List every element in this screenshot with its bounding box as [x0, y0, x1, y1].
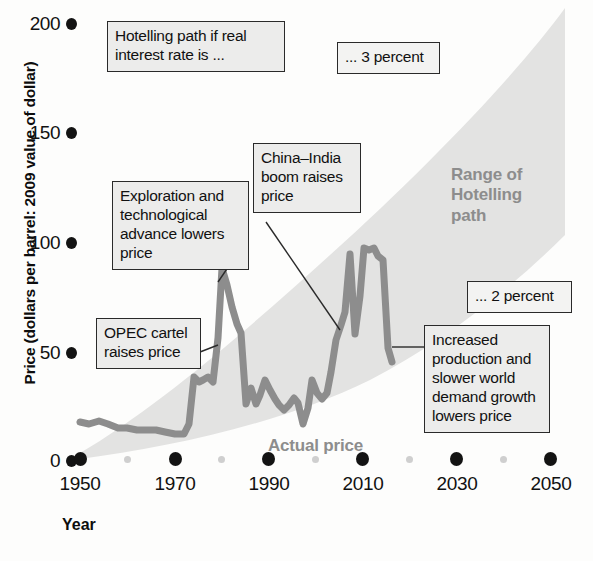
x-axis-title: Year [62, 516, 96, 534]
y-tick-150-label: 150 [16, 122, 60, 144]
china-line-1: China–India [261, 149, 353, 168]
x-tick-label-1950: 1950 [45, 473, 115, 495]
x-tick-label-2010: 2010 [328, 473, 398, 495]
exploration-line-2: technological [120, 206, 241, 225]
y-tick-50: 50 [16, 344, 77, 362]
x-tick-label-2030: 2030 [422, 473, 492, 495]
y-tick-100-label: 100 [16, 232, 60, 254]
hotelling-line-1: Hotelling path if real [115, 27, 277, 46]
x-tick-dot-1970 [169, 452, 182, 466]
x-tick-dot-2020 [406, 456, 413, 463]
y-tick-150-dot [66, 127, 77, 139]
opec-line-1: OPEC cartel [104, 324, 193, 343]
range-line-2: Hotelling [451, 185, 522, 205]
y-tick-200: 200 [16, 15, 77, 33]
annotation-hotelling-path-box: Hotelling path if real interest rate is … [107, 21, 285, 72]
y-tick-0-label: 0 [16, 450, 60, 472]
exploration-line-4: price [120, 244, 241, 263]
y-tick-150: 150 [16, 124, 77, 142]
range-line-3: path [451, 206, 522, 226]
x-tick-dot-2040 [500, 456, 507, 463]
x-tick-dot-1960 [124, 456, 131, 463]
y-tick-100: 100 [16, 234, 77, 252]
china-line-3: price [261, 187, 353, 206]
range-of-hotelling-path-label: Range of Hotelling path [451, 165, 522, 226]
opec-line-2: raises price [104, 343, 193, 362]
x-tick-label-1990: 1990 [234, 473, 304, 495]
x-tick-dot-1950 [74, 452, 87, 466]
annotation-china-india-box: China–India boom raises price [253, 143, 361, 213]
annotation-opec-box: OPEC cartel raises price [96, 318, 201, 369]
x-tick-dot-2030 [450, 452, 463, 466]
y-tick-100-dot [66, 237, 77, 249]
y-tick-50-label: 50 [16, 342, 60, 364]
y-tick-200-dot [66, 18, 77, 30]
x-tick-label-1970: 1970 [140, 473, 210, 495]
x-tick-dot-2000 [312, 456, 319, 463]
actual-price-label: Actual price [268, 436, 363, 456]
exploration-line-1: Exploration and [120, 187, 241, 206]
y-tick-50-dot [66, 347, 77, 359]
y-axis-title: Price (dollars per barrel: 2009 value of… [21, 0, 39, 449]
increased-line-2: production and [432, 350, 542, 369]
annotation-two-percent-box: ... 2 percent [467, 281, 572, 313]
range-line-1: Range of [451, 165, 522, 185]
leader-line-china [266, 222, 340, 330]
y-tick-200-label: 200 [16, 13, 60, 35]
three-percent-text: ... 3 percent [345, 48, 432, 67]
x-tick-dot-1980 [218, 456, 225, 463]
leader-line-opec [200, 345, 218, 352]
annotation-exploration-box: Exploration and technological advance lo… [112, 181, 249, 270]
annotation-three-percent-box: ... 3 percent [337, 42, 440, 74]
increased-line-1: Increased [432, 331, 542, 350]
china-line-2: boom raises [261, 168, 353, 187]
x-tick-label-2050: 2050 [516, 473, 586, 495]
y-tick-0: 0 [16, 452, 77, 470]
increased-line-5: lowers price [432, 407, 542, 426]
annotation-increased-production-box: Increased production and slower world de… [424, 325, 550, 433]
increased-line-3: slower world [432, 369, 542, 388]
x-tick-dot-2050 [544, 452, 557, 466]
increased-line-4: demand growth [432, 388, 542, 407]
two-percent-text: ... 2 percent [475, 287, 564, 306]
chart-figure: Price (dollars per barrel: 2009 value of… [0, 0, 593, 561]
hotelling-line-2: interest rate is ... [115, 46, 277, 65]
exploration-line-3: advance lowers [120, 225, 241, 244]
